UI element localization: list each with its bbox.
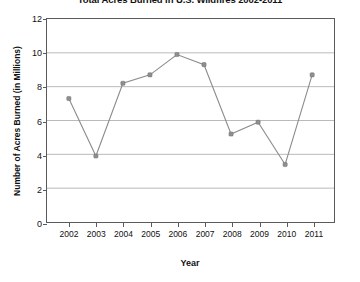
x-tick-label: 2003 (87, 229, 106, 239)
x-tick-mark (232, 222, 233, 227)
data-point-marker (148, 73, 152, 77)
x-tick-mark (151, 222, 152, 227)
chart-figure: Total Acres Burned in U.S. Wildfires 200… (0, 0, 360, 282)
y-tick-mark (43, 19, 47, 20)
x-tick-label: 2011 (305, 229, 323, 239)
y-tick-mark (43, 87, 47, 88)
x-tick-label: 2004 (114, 229, 133, 239)
chart-title: Total Acres Burned in U.S. Wildfires 200… (0, 0, 360, 5)
data-point-marker (67, 96, 71, 100)
y-tick-label: 0 (37, 219, 42, 229)
x-tick-mark (205, 222, 206, 227)
data-point-marker (121, 81, 125, 85)
y-tick-mark (43, 122, 47, 123)
data-point-marker (202, 63, 206, 67)
x-tick-mark (69, 222, 70, 227)
x-tick-mark (260, 222, 261, 227)
y-tick-label: 2 (37, 185, 42, 195)
y-tick-label: 6 (37, 117, 42, 127)
data-point-marker (229, 132, 233, 136)
x-tick-mark (123, 222, 124, 227)
y-tick-label: 4 (37, 151, 42, 161)
x-tick-label: 2007 (196, 229, 215, 239)
y-tick-mark (43, 156, 47, 157)
x-tick-mark (287, 222, 288, 227)
y-tick-mark (43, 224, 47, 225)
y-tick-label: 12 (32, 14, 42, 24)
x-axis-title: Year (45, 258, 335, 268)
line-series (47, 19, 334, 222)
y-axis-title: Number of Acres Burned (in Millions) (12, 21, 22, 221)
y-tick-label: 8 (37, 82, 42, 92)
plot-area: 0246810122002200320042005200620072008200… (46, 18, 335, 223)
x-tick-label: 2010 (277, 229, 296, 239)
x-tick-mark (178, 222, 179, 227)
x-tick-mark (314, 222, 315, 227)
data-point-marker (310, 73, 314, 77)
data-point-marker (283, 162, 287, 166)
y-tick-mark (43, 53, 47, 54)
y-tick-label: 10 (32, 48, 42, 58)
y-tick-mark (43, 190, 47, 191)
x-tick-label: 2008 (223, 229, 242, 239)
x-tick-label: 2002 (60, 229, 79, 239)
x-tick-label: 2005 (141, 229, 160, 239)
data-point-marker (175, 52, 179, 56)
x-tick-label: 2009 (250, 229, 269, 239)
data-point-marker (94, 154, 98, 158)
x-tick-mark (96, 222, 97, 227)
x-tick-label: 2006 (168, 229, 187, 239)
data-point-marker (256, 120, 260, 124)
